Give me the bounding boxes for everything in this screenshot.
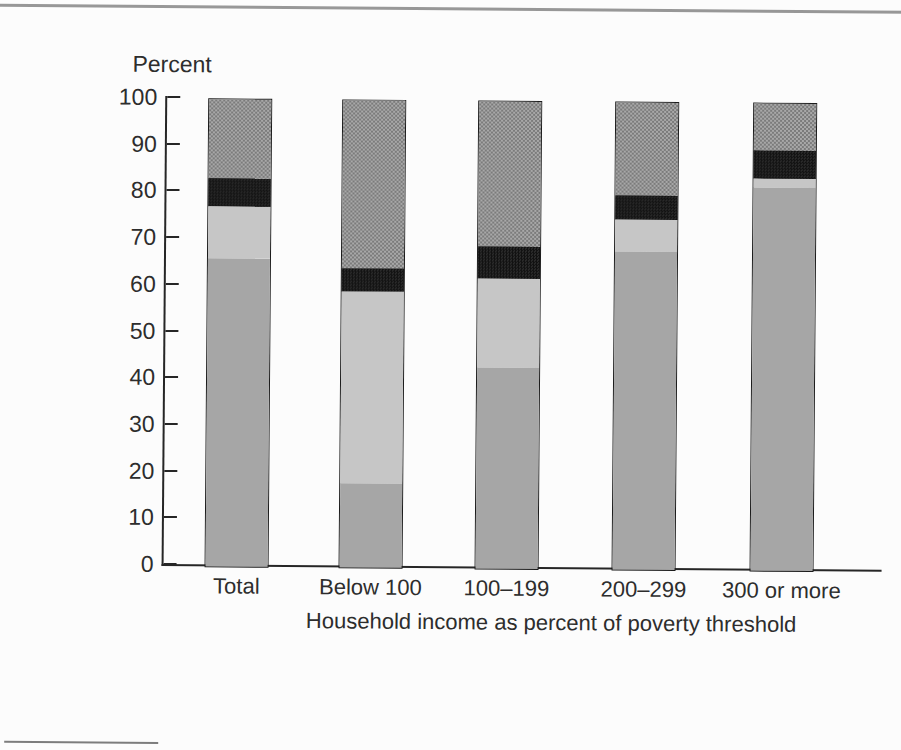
y-tick-label-0: 0 — [89, 550, 153, 577]
bar-below-100 — [339, 99, 407, 568]
y-tick-mark-50 — [165, 329, 178, 331]
y-axis-title: Percent — [132, 51, 211, 79]
y-tick-mark-30 — [165, 423, 178, 425]
y-tick-label-20: 20 — [90, 457, 154, 484]
bar-segment-no-health-insurance — [342, 100, 405, 269]
y-tick-mark-60 — [166, 283, 179, 285]
bar-segment-medicaid — [208, 207, 270, 259]
y-tick-mark-40 — [165, 376, 178, 378]
bar-segment-medicaid — [754, 178, 816, 188]
y-tick-label-100: 100 — [93, 83, 157, 110]
y-tick-label-60: 60 — [92, 270, 156, 297]
y-tick-mark-10 — [164, 516, 177, 518]
bar-segment-other — [208, 179, 270, 208]
bar-segment-medicaid — [340, 292, 404, 484]
bar-100-199 — [475, 100, 543, 569]
y-tick-label-90: 90 — [93, 130, 157, 157]
bar-total — [205, 98, 273, 567]
y-tick-mark-80 — [167, 189, 180, 191]
y-tick-mark-0 — [164, 563, 177, 565]
bar-segment-no-health-insurance — [754, 104, 816, 151]
y-tick-label-70: 70 — [92, 224, 156, 251]
top-horizontal-rule — [0, 4, 901, 14]
y-tick-label-50: 50 — [91, 317, 155, 344]
y-tick-label-80: 80 — [92, 177, 156, 204]
y-tick-label-40: 40 — [91, 364, 155, 391]
bar-segment-medicaid — [477, 279, 540, 368]
y-tick-mark-100 — [167, 96, 180, 98]
y-tick-label-10: 10 — [90, 504, 154, 531]
bar-300-or-more — [750, 103, 818, 572]
footnote-rule — [4, 741, 158, 744]
bar-segment-employer — [340, 483, 403, 568]
scanned-figure-page: Percent 0102030405060708090100 TotalBelo… — [0, 0, 901, 750]
bar-segment-other — [754, 150, 816, 179]
bar-segment-employer — [476, 368, 540, 569]
bar-segment-other — [342, 268, 404, 292]
bar-segment-employer — [206, 258, 270, 567]
bar-segment-employer — [751, 188, 816, 571]
bar-segment-medicaid — [615, 219, 677, 252]
bar-200-299 — [612, 102, 680, 571]
bar-segment-no-health-insurance — [478, 101, 541, 246]
x-label-300-or-more: 300 or more — [696, 577, 866, 604]
bar-segment-no-health-insurance — [209, 99, 272, 179]
y-tick-label-30: 30 — [91, 410, 155, 437]
y-tick-mark-70 — [166, 236, 179, 238]
bar-segment-other — [615, 196, 677, 220]
y-tick-mark-20 — [164, 470, 177, 472]
bar-segment-other — [478, 246, 540, 279]
bar-segment-no-health-insurance — [615, 103, 678, 197]
x-axis-title: Household income as percent of poverty t… — [251, 608, 851, 639]
bar-segment-employer — [613, 252, 677, 570]
y-tick-mark-90 — [167, 143, 180, 145]
